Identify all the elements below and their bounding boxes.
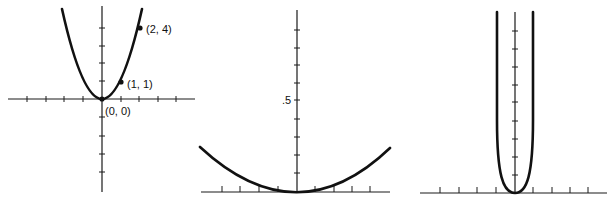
three-parabola-graphs: (0, 0) (1, 1) (2, 4) .5: [0, 0, 615, 205]
y-tick-label-half: .5: [282, 94, 291, 106]
label-2-4: (2, 4): [146, 23, 172, 35]
graph-1: (0, 0) (1, 1) (2, 4): [8, 6, 195, 192]
point-2-4: [137, 25, 142, 30]
label-origin: (0, 0): [105, 105, 131, 117]
graph-3: [420, 12, 607, 193]
point-origin: [99, 96, 104, 101]
label-1-1: (1, 1): [127, 78, 153, 90]
parabola-curve-2: [200, 147, 390, 192]
graph-2: .5: [200, 10, 390, 192]
point-1-1: [118, 79, 123, 84]
